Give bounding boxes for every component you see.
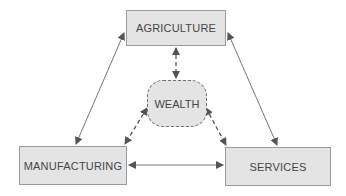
node-manufacturing-label: MANUFACTURING xyxy=(24,160,123,172)
node-services-label: SERVICES xyxy=(249,161,306,173)
node-agriculture: AGRICULTURE xyxy=(126,10,226,46)
node-manufacturing: MANUFACTURING xyxy=(19,146,127,185)
node-agriculture-label: AGRICULTURE xyxy=(136,22,216,34)
node-wealth: WEALTH xyxy=(147,80,207,127)
node-services: SERVICES xyxy=(225,147,331,186)
edge-services-wealth xyxy=(206,108,226,145)
edge-agriculture-services xyxy=(228,33,277,145)
node-wealth-label: WEALTH xyxy=(154,98,199,110)
edge-manufacturing-wealth xyxy=(125,108,147,144)
edge-agriculture-manufacturing xyxy=(76,33,124,144)
